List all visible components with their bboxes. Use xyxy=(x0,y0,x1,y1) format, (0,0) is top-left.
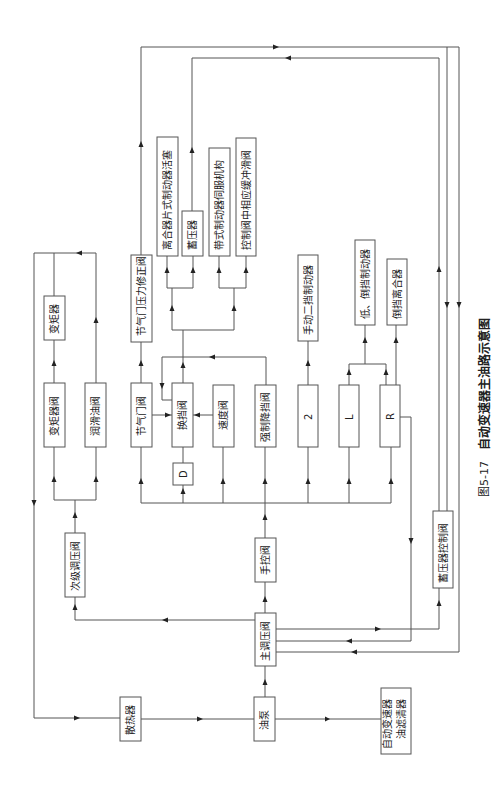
low-reverse-brake-box: 低、倒挡制动器 xyxy=(355,240,375,325)
svg-text:油泵: 油泵 xyxy=(258,710,270,730)
throttle-valve-box: 节气门阀 xyxy=(131,383,152,447)
svg-text:强制降挡阀: 强制降挡阀 xyxy=(259,392,271,442)
range-r-box: R xyxy=(380,385,400,447)
reverse-clutch-box: 倒挡离合器 xyxy=(387,259,407,325)
main-pressure-valve-box: 主调压阀 xyxy=(255,613,276,666)
svg-text:次级调压阀: 次级调压阀 xyxy=(69,541,81,591)
svg-text:离合器片式制动器活塞: 离合器片式制动器活塞 xyxy=(161,150,173,250)
svg-text:低、倒挡制动器: 低、倒挡制动器 xyxy=(359,249,371,319)
svg-text:散热器: 散热器 xyxy=(124,705,136,735)
clutch-brake-piston-box: 离合器片式制动器活塞 xyxy=(157,137,178,256)
oil-pump-box: 油泵 xyxy=(254,697,275,741)
svg-text:自动变速器: 自动变速器 xyxy=(381,699,393,749)
svg-text:主调压阀: 主调压阀 xyxy=(259,621,271,661)
svg-text:倒挡离合器: 倒挡离合器 xyxy=(391,269,403,319)
svg-text:节气门压力修正阀: 节气门压力修正阀 xyxy=(135,256,147,336)
svg-text:油滤清器: 油滤清器 xyxy=(395,699,407,739)
svg-text:润滑油阀: 润滑油阀 xyxy=(89,396,101,436)
range-d-box: D xyxy=(173,463,193,485)
throttle-modulator-valve-box: 节气门压力修正阀 xyxy=(131,255,152,342)
figure-number: 图5-17 xyxy=(478,461,491,497)
svg-text:控制阀中相应缓冲滑阀: 控制阀中相应缓冲滑阀 xyxy=(240,150,252,250)
range-l-box: L xyxy=(339,385,359,447)
converter-valve-box: 变矩器阀 xyxy=(44,383,65,447)
svg-text:蓄压器控制阀: 蓄压器控制阀 xyxy=(437,523,449,583)
svg-text:节气门阀: 节气门阀 xyxy=(135,396,147,436)
lube-valve-box: 润滑油阀 xyxy=(85,383,106,447)
figure-title: 自动变速器主油路示意图 xyxy=(477,318,492,450)
torque-converter-box: 变矩器 xyxy=(44,296,65,340)
accumulator-box: 蓄压器 xyxy=(182,211,203,256)
svg-text:L: L xyxy=(344,414,355,420)
svg-text:变矩器: 变矩器 xyxy=(48,304,60,334)
manual-valve-box: 手控阀 xyxy=(255,538,276,582)
svg-text:手动二挡制动器: 手动二挡制动器 xyxy=(302,265,314,335)
svg-text:D: D xyxy=(178,470,189,478)
svg-text:带式制动器伺服机构: 带式制动器伺服机构 xyxy=(213,160,225,250)
svg-text:R: R xyxy=(385,413,396,420)
hydraulic-circuit-diagram: 散热器 油泵 自动变速器 油滤清器 主调压阀 次级调压阀 手控阀 变矩器阀 润滑… xyxy=(0,0,504,794)
range-2-box: 2 xyxy=(298,385,318,447)
manual-second-brake-box: 手动二挡制动器 xyxy=(298,255,318,341)
svg-text:2: 2 xyxy=(303,414,314,420)
svg-text:手控阀: 手控阀 xyxy=(259,545,271,575)
band-servo-box: 带式制动器伺服机构 xyxy=(209,148,230,256)
svg-text:换挡阀: 换挡阀 xyxy=(176,400,188,430)
accumulator-control-valve-box: 蓄压器控制阀 xyxy=(433,511,453,588)
governor-valve-box: 速度阀 xyxy=(213,385,234,447)
figure-caption: 图5-17 自动变速器主油路示意图 xyxy=(477,318,492,497)
oil-filter-box: 自动变速器 油滤清器 xyxy=(381,688,411,754)
buffer-valve-box: 控制阀中相应缓冲滑阀 xyxy=(236,138,256,256)
svg-text:蓄压器: 蓄压器 xyxy=(187,220,198,250)
secondary-pressure-valve-box: 次级调压阀 xyxy=(65,533,85,597)
svg-text:速度阀: 速度阀 xyxy=(217,400,229,430)
kickdown-valve-box: 强制降挡阀 xyxy=(255,385,276,447)
shift-valve-box: 换挡阀 xyxy=(172,383,193,447)
svg-text:变矩器阀: 变矩器阀 xyxy=(48,396,60,436)
radiator-box: 散热器 xyxy=(120,697,141,741)
